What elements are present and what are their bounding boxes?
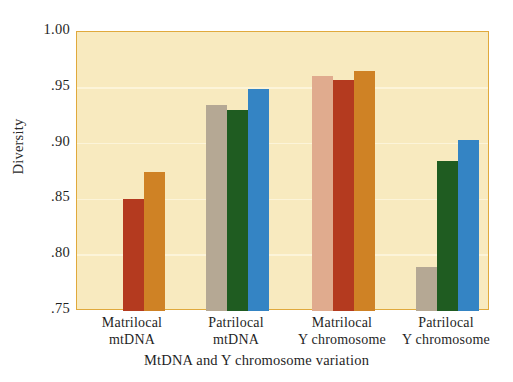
bar xyxy=(354,71,375,311)
y-tick-label: .95 xyxy=(8,77,70,94)
y-tick-label: .85 xyxy=(8,188,70,205)
bar xyxy=(227,110,248,311)
bar xyxy=(248,89,269,311)
y-tick-label: 1.00 xyxy=(8,21,70,38)
x-tick-label-line2: Y chromosome xyxy=(381,331,511,348)
x-tick-label-line1: Patrilocal xyxy=(381,314,511,331)
bar xyxy=(312,76,333,311)
bar xyxy=(123,199,144,311)
bar xyxy=(416,267,437,311)
y-tick-label: .80 xyxy=(8,244,70,261)
plot-area xyxy=(76,31,489,310)
bar xyxy=(102,193,123,311)
x-tick-label: PatrilocalY chromosome xyxy=(381,314,511,348)
bar xyxy=(437,161,458,311)
bar xyxy=(333,80,354,311)
chart-figure: Diversity 1.00.95.90.85.80.75 Matrilocal… xyxy=(0,0,513,382)
x-axis-title: MtDNA and Y chromosome variation xyxy=(0,352,513,369)
bar xyxy=(206,105,227,311)
bar xyxy=(144,172,165,312)
bars-container xyxy=(77,32,488,309)
y-tick-label: .90 xyxy=(8,133,70,150)
y-tick-label: .75 xyxy=(8,300,70,317)
bar xyxy=(458,140,479,311)
